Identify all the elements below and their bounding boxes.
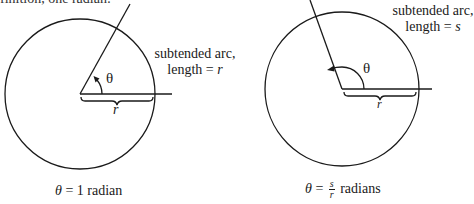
caption-right: θ = s r radians <box>305 179 381 200</box>
diagram-one-radian <box>5 4 172 169</box>
caption-left: θ = 1 radian <box>55 183 122 199</box>
radian-definition-figure: finition, one radian: subtended arc, len… <box>0 0 474 204</box>
arrowhead-right-icon <box>327 66 335 72</box>
arc-label-left-line2: length = r <box>145 62 245 78</box>
arc-label-right-line2: length = s <box>389 19 474 35</box>
angle-arc-left <box>97 80 102 94</box>
arc-label-left: subtended arc, length = r <box>145 46 245 78</box>
fraction-s-over-r: s r <box>329 179 335 200</box>
theta-label-right: θ <box>363 60 370 76</box>
angle-ray-left <box>80 4 130 94</box>
arc-label-left-line1: subtended arc, <box>145 46 245 62</box>
radius-label-left: r <box>113 102 118 118</box>
radius-label-right: r <box>377 96 382 112</box>
arc-label-right-line1: subtended arc, <box>389 3 474 19</box>
arc-label-right: subtended arc, length = s <box>389 3 474 35</box>
angle-arc-right <box>332 67 364 89</box>
theta-label-left: θ <box>106 70 113 86</box>
